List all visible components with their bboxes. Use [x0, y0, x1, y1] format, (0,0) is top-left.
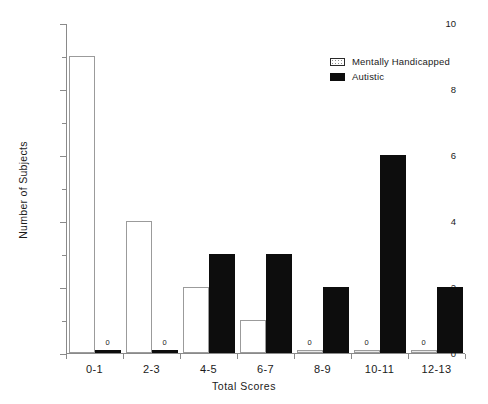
bar-autistic-6-7 — [266, 254, 292, 353]
x-tick-label: 2-3 — [143, 364, 160, 375]
y-tick-major — [60, 156, 66, 157]
bar-mentally-handicapped-6-7 — [240, 320, 266, 353]
x-tick — [294, 354, 295, 359]
y-tick-label: 6 — [451, 151, 456, 161]
legend-item-autistic: Autistic — [330, 70, 450, 83]
x-tick-label: 12-13 — [421, 364, 451, 375]
x-tick-label: 8-9 — [314, 364, 331, 375]
legend-label-autistic: Autistic — [352, 72, 384, 82]
x-axis-title: Total Scores — [0, 380, 488, 392]
y-tick-major — [60, 288, 66, 289]
y-tick-minor — [62, 57, 66, 58]
zero-value-label: 0 — [421, 339, 425, 347]
x-tick — [465, 354, 466, 359]
bar-autistic-10-11 — [380, 155, 406, 353]
x-axis-line — [66, 353, 465, 354]
zero-value-label: 0 — [105, 339, 109, 347]
y-tick-label: 8 — [451, 85, 456, 95]
x-tick-label: 10-11 — [365, 364, 394, 375]
y-tick-major — [60, 90, 66, 91]
y-tick-major — [60, 222, 66, 223]
y-tick-minor — [62, 189, 66, 190]
bar-mentally-handicapped-10-11 — [354, 350, 380, 353]
y-tick-minor — [62, 255, 66, 256]
bar-autistic-2-3 — [152, 350, 178, 353]
bar-chart: Number of Subjects 0246810 0-12-34-56-78… — [0, 0, 488, 404]
bar-mentally-handicapped-2-3 — [126, 221, 152, 353]
y-axis-line — [66, 24, 67, 354]
x-tick-label: 0-1 — [86, 364, 103, 375]
bar-autistic-8-9 — [323, 287, 349, 353]
x-tick — [408, 354, 409, 359]
zero-value-label: 0 — [364, 339, 368, 347]
y-tick-label: 4 — [451, 217, 456, 227]
legend-swatch-icon-mentally-handicapped — [330, 58, 345, 66]
x-tick — [66, 354, 67, 359]
legend-label-mentally-handicapped: Mentally Handicapped — [352, 57, 450, 67]
bar-autistic-0-1 — [95, 350, 121, 353]
bar-autistic-4-5 — [209, 254, 235, 353]
bar-mentally-handicapped-4-5 — [183, 287, 209, 353]
bar-mentally-handicapped-8-9 — [297, 350, 323, 353]
legend: Mentally Handicapped Autistic — [330, 55, 450, 85]
x-tick — [351, 354, 352, 359]
zero-value-label: 0 — [162, 339, 166, 347]
bar-mentally-handicapped-0-1 — [69, 56, 95, 353]
y-tick-minor — [62, 123, 66, 124]
y-tick-major — [60, 24, 66, 25]
y-tick-label: 10 — [445, 19, 456, 29]
zero-value-label: 0 — [307, 339, 311, 347]
x-tick — [237, 354, 238, 359]
bar-mentally-handicapped-12-13 — [411, 350, 437, 353]
x-tick — [180, 354, 181, 359]
y-tick-minor — [62, 321, 66, 322]
x-tick-label: 4-5 — [200, 364, 217, 375]
bar-autistic-12-13 — [437, 287, 463, 353]
legend-swatch-icon-autistic — [330, 73, 345, 81]
x-tick — [123, 354, 124, 359]
x-tick-label: 6-7 — [257, 364, 274, 375]
legend-item-mentally-handicapped: Mentally Handicapped — [330, 55, 450, 68]
